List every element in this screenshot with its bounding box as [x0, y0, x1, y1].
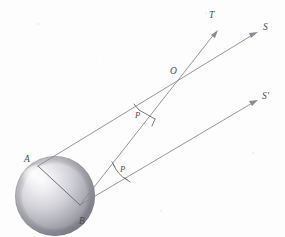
label-point-o: O	[170, 66, 177, 76]
paper-speck	[96, 60, 97, 61]
ray-b-to-t	[80, 33, 215, 205]
ray-a-to-s	[38, 34, 254, 166]
label-point-b: B	[79, 216, 85, 226]
paper-speck	[252, 152, 254, 154]
paper-speck	[37, 23, 39, 25]
ray-b-to-s-prime	[80, 102, 254, 205]
label-ray-s: S	[263, 22, 268, 32]
label-angle-upper-p: P	[134, 110, 140, 120]
paper-speck	[205, 12, 207, 14]
parallax-diagram-figure: A B O T S S' P P	[0, 0, 285, 237]
arrow-head-s-prime	[249, 100, 258, 106]
paper-speck	[160, 210, 162, 212]
label-ray-s-prime: S'	[262, 91, 270, 101]
label-ray-t: T	[209, 10, 215, 20]
arrow-head-s	[249, 32, 258, 38]
label-point-a: A	[23, 154, 30, 164]
label-angle-lower-p: P	[119, 164, 125, 174]
diagram-canvas: A B O T S S' P P	[0, 0, 285, 237]
